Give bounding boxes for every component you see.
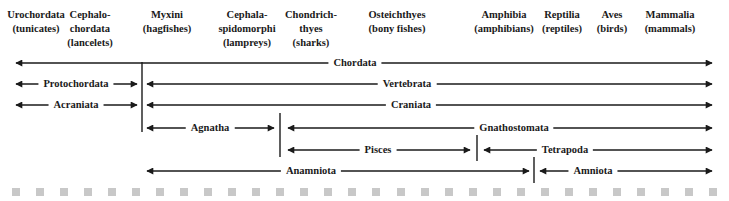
group-label: Protochordata (38, 78, 113, 90)
group-label: Tetrapoda (537, 144, 593, 156)
footer-dot (517, 188, 525, 196)
footer-dot (180, 188, 188, 196)
footer-dot (348, 188, 356, 196)
footer-dot (324, 188, 332, 196)
footer-dot (228, 188, 236, 196)
footer-dot (84, 188, 92, 196)
group-label: Vertebrata (378, 78, 437, 90)
footer-dot (421, 188, 429, 196)
footer-dot (276, 188, 284, 196)
footer-dot (493, 188, 501, 196)
footer-dot (565, 188, 573, 196)
footer-dot (252, 188, 260, 196)
group-label: Agnatha (186, 122, 235, 134)
group-label: Gnathostomata (474, 122, 553, 134)
footer-dot (108, 188, 116, 196)
footer-dot (12, 188, 20, 196)
footer-dot (445, 188, 453, 196)
classification-diagram (0, 0, 729, 201)
footer-dot (637, 188, 645, 196)
footer-dot (685, 188, 693, 196)
group-label: Amniota (568, 165, 617, 177)
footer-dot (661, 188, 669, 196)
group-label: Pisces (360, 144, 397, 156)
group-label: Craniata (386, 99, 436, 111)
footer-dot (132, 188, 140, 196)
footer-dot (469, 188, 477, 196)
group-label: Chordata (328, 57, 381, 69)
footer-dot (397, 188, 405, 196)
footer-dot (372, 188, 380, 196)
footer-dot (204, 188, 212, 196)
footer-dot (541, 188, 549, 196)
footer-dot (36, 188, 44, 196)
group-label: Anamniota (281, 165, 341, 177)
footer-dot (709, 188, 717, 196)
footer-dot (156, 188, 164, 196)
footer-dot (613, 188, 621, 196)
footer-dot (589, 188, 597, 196)
footer-dot (300, 188, 308, 196)
footer-dot (60, 188, 68, 196)
group-label: Acraniata (49, 99, 104, 111)
footer-dotted-border (12, 188, 717, 197)
